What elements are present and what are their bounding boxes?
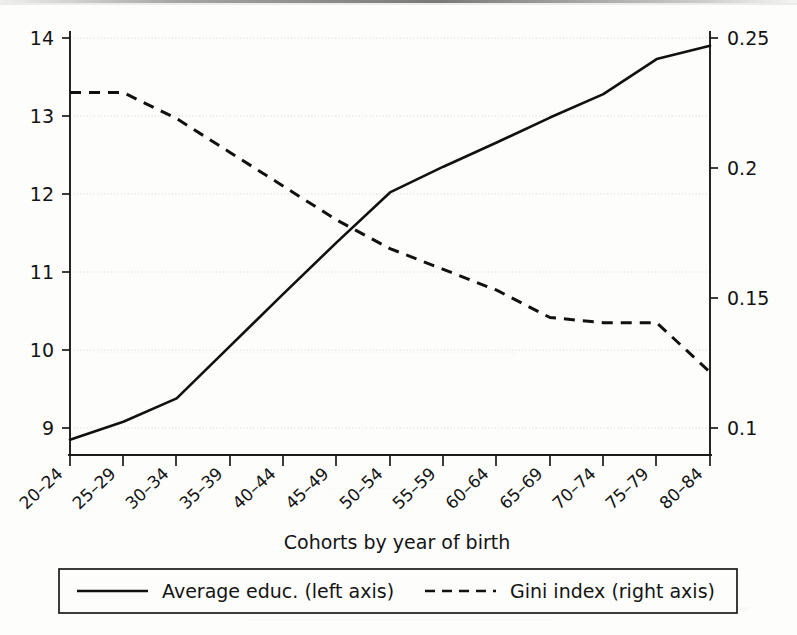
x-tick-label-2: 30–34 [121, 463, 172, 513]
x-tick-label-4: 40–44 [228, 463, 279, 513]
left-tick-label-13: 13 [30, 105, 54, 127]
x-tick-label-5: 45–49 [281, 463, 332, 513]
gridlines [70, 38, 710, 428]
series-average-educ [70, 46, 710, 440]
right-tick-label-02: 0.2 [727, 157, 757, 179]
series-gini-index [70, 93, 710, 373]
left-tick-label-14: 14 [30, 27, 54, 49]
left-axis-tick-labels: 14 13 12 11 10 9 [30, 27, 54, 439]
left-axis-ticks [62, 38, 70, 428]
x-tick-label-3: 35–39 [175, 463, 226, 513]
x-axis-tick-labels: 20–24 25–29 30–34 35–39 40–44 45–49 50–5… [15, 463, 706, 513]
left-tick-label-9: 9 [42, 417, 54, 439]
x-axis-ticks [70, 455, 710, 466]
right-tick-label-015: 0.15 [727, 287, 769, 309]
right-axis-tick-labels: 0.25 0.2 0.15 0.1 [727, 27, 769, 439]
line-chart: 14 13 12 11 10 9 0.25 0.2 0.15 0.1 [0, 0, 797, 635]
x-tick-label-1: 25–29 [68, 463, 119, 513]
x-tick-label-11: 75–79 [601, 463, 652, 513]
x-axis-title: Cohorts by year of birth [284, 531, 511, 553]
left-tick-label-12: 12 [30, 183, 54, 205]
x-tick-label-9: 65–69 [495, 463, 546, 513]
legend: Average educ. (left axis) Gini index (ri… [59, 569, 737, 613]
x-tick-label-12: 80–84 [655, 463, 706, 513]
left-tick-label-10: 10 [30, 339, 54, 361]
figure-container: 14 13 12 11 10 9 0.25 0.2 0.15 0.1 [0, 0, 797, 635]
right-axis-ticks [710, 38, 718, 428]
left-tick-label-11: 11 [30, 261, 54, 283]
legend-label-gini-index: Gini index (right axis) [510, 580, 715, 602]
legend-label-average-educ: Average educ. (left axis) [162, 580, 394, 602]
right-tick-label-01: 0.1 [727, 417, 757, 439]
right-tick-label-025: 0.25 [727, 27, 769, 49]
axis-lines [69, 32, 711, 455]
x-tick-label-0: 20–24 [15, 463, 66, 513]
x-tick-label-10: 70–74 [548, 463, 599, 513]
